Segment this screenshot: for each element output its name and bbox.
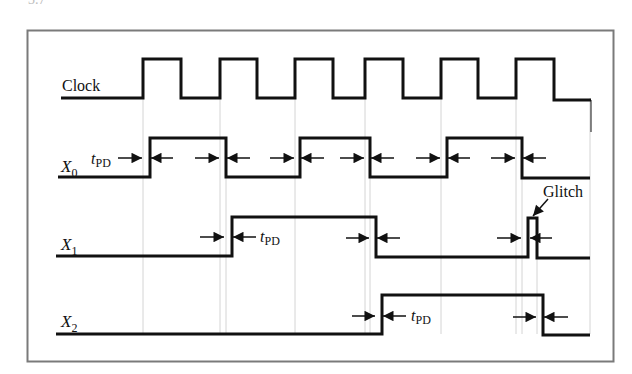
timing-diagram: Clock X0 tPD X1 <box>0 0 632 374</box>
diagram-frame <box>28 31 614 362</box>
tpd-label: tPD <box>91 150 111 170</box>
clock-signal: Clock <box>61 59 591 132</box>
tpd-label: tPD <box>260 228 280 248</box>
glitch-label: Glitch <box>543 183 583 200</box>
x2-label: X2 <box>60 312 77 335</box>
x0-signal: X0 tPD <box>58 138 590 180</box>
tpd-label: tPD <box>411 307 431 327</box>
clock-edge-guides <box>143 60 590 334</box>
clock-label: Clock <box>62 77 100 94</box>
x2-signal: X2 tPD <box>56 295 590 335</box>
x1-signal: X1 tPD Glitch <box>56 183 590 258</box>
